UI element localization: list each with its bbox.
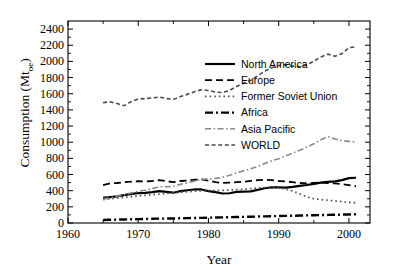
x-tick-label: 1990 [267,227,291,241]
series-line-asia-pacific [103,137,356,200]
y-tick-label: 2400 [40,22,64,36]
x-tick-label: 1960 [56,227,80,241]
y-tick-label: 2200 [40,38,64,52]
y-tick-label: 1200 [40,119,64,133]
y-tick-label: 2000 [40,54,64,68]
figure: Consumption (Mtoe) Year 0200400600800100… [0,0,400,277]
legend-label-former-soviet-union: Former Soviet Union [241,90,337,102]
chart-canvas: 0200400600800100012001400160018002000220… [0,0,400,277]
x-tick-label: 1970 [126,227,150,241]
chart-legend: North AmericaEuropeFormer Soviet UnionAf… [205,58,337,151]
y-tick-label: 1800 [40,71,64,85]
legend-label-world: WORLD [241,139,281,151]
legend-label-europe: Europe [241,74,275,86]
legend-label-africa: Africa [241,106,268,118]
y-tick-label: 200 [46,200,64,214]
y-tick-label: 400 [46,184,64,198]
x-tick-label: 1980 [196,227,220,241]
legend-label-north-america: North America [241,58,308,70]
y-tick-label: 1400 [40,103,64,117]
y-tick-label: 800 [46,151,64,165]
series-line-africa [103,214,356,220]
series-line-former-soviet-union [103,187,356,202]
axes: 0200400600800100012001400160018002000220… [40,21,370,241]
y-tick-label: 1000 [40,135,64,149]
y-tick-label: 1600 [40,87,64,101]
legend-label-asia-pacific: Asia Pacific [241,123,295,135]
y-tick-label: 600 [46,168,64,182]
data-series [103,47,356,220]
x-tick-label: 2000 [337,227,361,241]
